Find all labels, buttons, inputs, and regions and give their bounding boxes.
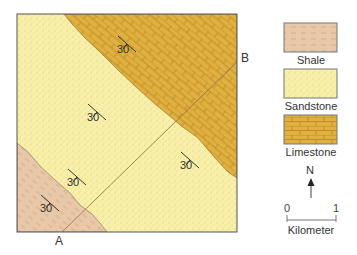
scale-min-label: 0 — [284, 202, 290, 214]
legend-label-sandstone: Sandstone — [270, 100, 352, 112]
legend-swatch-sandstone — [284, 69, 337, 98]
section-label-a: A — [55, 234, 63, 248]
legend-swatch-limestone — [284, 115, 337, 144]
dip-value-label: 30 — [117, 43, 129, 55]
legend-label-limestone: Limestone — [270, 146, 352, 158]
scale-max-label: 1 — [333, 202, 339, 214]
north-arrow-icon — [308, 178, 315, 186]
dip-value-label: 30 — [87, 111, 99, 123]
geologic-map — [0, 0, 357, 255]
dip-value-label: 30 — [67, 176, 79, 188]
dip-value-label: 30 — [180, 159, 192, 171]
scale-unit-label: Kilometer — [270, 224, 352, 236]
legend-label-shale: Shale — [270, 54, 352, 66]
dip-value-label: 30 — [40, 202, 52, 214]
section-label-b: B — [241, 51, 249, 65]
north-label: N — [306, 164, 314, 176]
legend-swatch-shale — [284, 23, 337, 52]
